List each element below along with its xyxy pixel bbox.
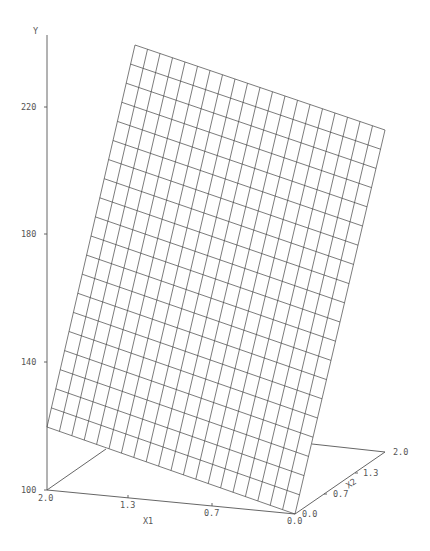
grid-line [295,130,385,514]
grid-line [245,113,335,497]
surface-wireframe [47,45,385,514]
back-edge-x2-at-x1-2 [47,449,106,490]
grid-line [283,126,373,510]
x2-tick-1.3: 1.3 [363,468,378,478]
x2-tick-2.0: 2.0 [393,447,408,457]
grid-line [221,105,310,488]
grid-line [171,88,260,471]
x1-tick-0.0: 0.0 [287,516,302,526]
back-edge-x1-at-x2-2 [312,444,385,452]
grid-line [233,109,323,493]
x1-tick-0.7: 0.7 [204,508,219,518]
grid-line [72,54,160,436]
grid-line [208,100,297,483]
y-tick-220: 220 [21,102,36,112]
grid-line [84,58,172,440]
surface-plot: Y 220 180 140 100 2.0 1.3 0.7 0.0 X1 0.0… [0,0,430,551]
x2-axis: 0.0 0.7 1.3 2.0 X2 [295,447,408,519]
grid-line [146,79,235,462]
grid-line [97,62,185,444]
grid-line [196,96,285,479]
grid-line [134,75,223,458]
x1-tick-2.0: 2.0 [38,493,53,503]
grid-line [121,71,210,454]
y-tick-180: 180 [21,229,36,239]
x2-tick-0.7: 0.7 [333,489,348,499]
grid-line [183,92,272,475]
y-axis: Y 220 180 140 100 [21,26,47,495]
grid-line [47,45,135,427]
grid-line [109,66,198,449]
y-tick-140: 140 [21,357,36,367]
grid-line [258,117,348,501]
x1-tick-1.3: 1.3 [120,500,135,510]
y-tick-100: 100 [21,485,36,495]
grid-line [59,49,147,431]
y-axis-label: Y [33,26,38,36]
x2-tick-0.0: 0.0 [302,509,317,519]
x1-axis-label: X1 [143,516,153,526]
x1-axis: 2.0 1.3 0.7 0.0 X1 [38,490,302,526]
grid-line [159,83,248,466]
